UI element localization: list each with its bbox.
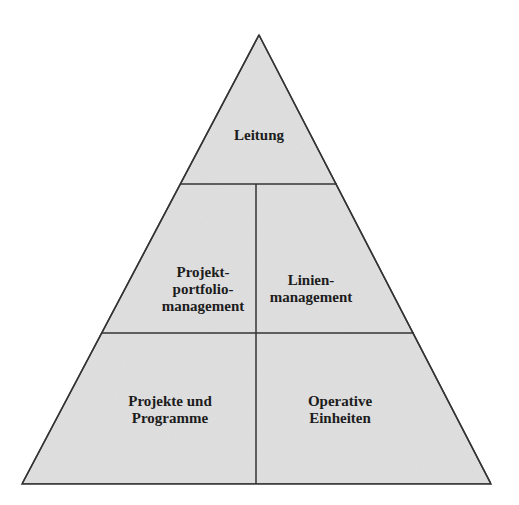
section-projekte-und-programme-line-1: Projekte und <box>128 393 211 410</box>
pyramid-diagram <box>0 0 519 505</box>
section-projekte-und-programme: Projekte und Programme <box>128 393 211 427</box>
section-linienmanagement: Linien- management <box>270 272 353 306</box>
section-operative-einheiten: Operative Einheiten <box>308 393 372 427</box>
section-operative-einheiten-line-1: Operative <box>308 393 372 410</box>
section-projektportfoliomanagement-line-1: Projekt- <box>162 264 245 281</box>
section-projektportfoliomanagement-line-3: management <box>162 298 245 315</box>
section-linienmanagement-line-2: management <box>270 289 353 306</box>
section-linienmanagement-line-1: Linien- <box>270 272 353 289</box>
section-projektportfoliomanagement: Projekt- portfolio- management <box>162 264 245 315</box>
section-leitung-line-1: Leitung <box>234 127 284 144</box>
section-leitung: Leitung <box>234 127 284 144</box>
section-operative-einheiten-line-2: Einheiten <box>308 410 372 427</box>
section-projektportfoliomanagement-line-2: portfolio- <box>162 281 245 298</box>
section-projekte-und-programme-line-2: Programme <box>128 410 211 427</box>
